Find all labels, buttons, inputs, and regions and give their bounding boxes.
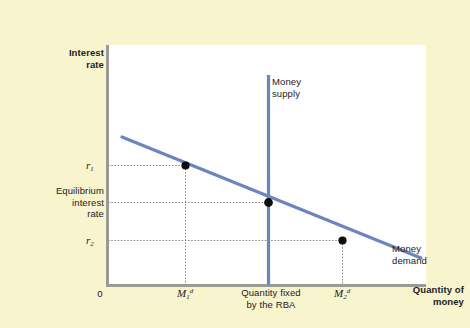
tick-m2-base: M [334,287,343,299]
quantity-fixed-label: Quantity fixed by the RBA [218,287,324,310]
equilibrium-rate-label: Equilibrium interest rate [14,185,104,220]
money-supply-label: Money supply [272,76,332,99]
tick-r2-sub: 2 [90,240,94,248]
origin-label: 0 [94,288,106,300]
money-market-figure: Interest rate Equilibrium interest rate … [0,0,470,328]
tick-m1-base: M [177,287,186,299]
tick-r1-sub: 1 [90,165,94,173]
money-demand-label: Money demand [392,243,454,266]
tick-label-r1: r1 [86,159,94,173]
y-axis-label: Interest rate [20,47,104,70]
tick-m1-sup: d [190,287,194,295]
tick-m2-sup: d [347,287,351,295]
plot-area [109,45,426,286]
tick-label-r2: r2 [86,234,94,248]
y-axis-line [106,45,109,286]
tick-label-m1: M1d [177,287,193,301]
x-axis-label: Quantity of money [374,284,464,307]
tick-label-m2: M2d [334,287,350,301]
